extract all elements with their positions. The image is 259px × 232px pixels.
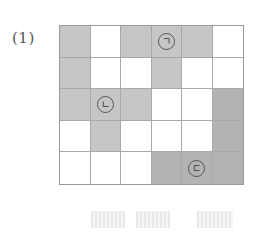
grid-cell	[91, 152, 122, 184]
grid-cell	[121, 121, 152, 153]
grid-cell	[182, 58, 213, 90]
grid-cell	[182, 121, 213, 153]
grid-cell	[60, 152, 91, 184]
grid-cell	[152, 121, 183, 153]
puzzle-grid: ㄱㄴㄷ	[59, 25, 244, 185]
grid-cell	[121, 58, 152, 90]
circled-letter-mark: ㄱ	[158, 33, 175, 50]
grid-cell	[91, 26, 122, 58]
answer-blank	[136, 211, 170, 228]
grid-cell	[121, 89, 152, 121]
grid-cell	[60, 58, 91, 90]
grid-cell	[213, 58, 244, 90]
grid-cell	[152, 58, 183, 90]
grid-cell	[121, 152, 152, 184]
grid-cell	[182, 89, 213, 121]
grid-cell	[152, 152, 183, 184]
grid-cell	[213, 89, 244, 121]
circled-letter-mark: ㄴ	[97, 96, 114, 113]
grid-cell	[60, 26, 91, 58]
grid-cell	[213, 26, 244, 58]
grid-cell: ㄱ	[152, 26, 183, 58]
grid-cell	[60, 121, 91, 153]
grid-cell	[91, 58, 122, 90]
answer-blank	[91, 211, 125, 228]
grid-cell: ㄴ	[91, 89, 122, 121]
grid-cell	[60, 89, 91, 121]
circled-letter-mark: ㄷ	[188, 160, 205, 177]
grid-cell	[91, 121, 122, 153]
grid-cell	[213, 121, 244, 153]
problem-number: (1)	[12, 29, 35, 47]
grid-cell	[182, 26, 213, 58]
grid-cell	[121, 26, 152, 58]
grid-cell	[213, 152, 244, 184]
grid-cell	[152, 89, 183, 121]
grid-cell: ㄷ	[182, 152, 213, 184]
answer-blank	[197, 211, 233, 228]
